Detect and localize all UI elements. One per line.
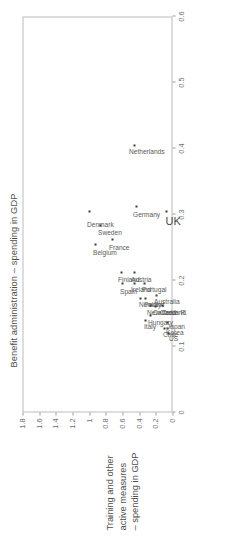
data-point[interactable]	[154, 305, 156, 307]
data-point[interactable]	[149, 314, 151, 316]
y-axis-tick	[122, 412, 123, 415]
data-point[interactable]	[161, 304, 163, 306]
y-axis-tick-label: 0.2	[151, 418, 160, 428]
rotated-chart-container: Benefit administration – spending in GDP…	[0, 0, 227, 548]
y-axis-tick-label: 0	[168, 418, 177, 422]
data-point-label: Germany	[132, 211, 159, 218]
x-axis-tick	[172, 81, 175, 82]
data-point-label: UK	[165, 214, 180, 226]
y-axis-tick-label: 1	[84, 418, 93, 422]
data-point[interactable]	[144, 319, 146, 321]
data-point-label: Portugal	[141, 286, 166, 293]
data-point-label: Italy	[144, 323, 156, 330]
data-point[interactable]	[94, 243, 96, 245]
x-axis-tick-label: 0.2	[176, 275, 185, 285]
y-axis-tick-label: 0.4	[134, 418, 143, 428]
y-axis-tick	[72, 412, 73, 415]
data-point[interactable]	[133, 271, 135, 273]
y-axis-tick	[139, 412, 140, 415]
x-axis-tick	[172, 15, 175, 16]
y-axis-title-line-2: active measures	[116, 412, 129, 530]
x-axis-tick	[172, 345, 175, 346]
y-axis-tick-label: 1.6	[34, 418, 43, 428]
y-axis-tick	[155, 412, 156, 415]
data-point[interactable]	[167, 332, 169, 334]
y-axis-tick-label: 1.4	[51, 418, 60, 428]
x-axis-title: Benefit administration – spending in GDP	[8, 193, 18, 367]
y-axis-title: Training and other active measures – spe…	[103, 412, 141, 530]
data-point[interactable]	[120, 271, 122, 273]
y-axis-tick	[105, 412, 106, 415]
x-axis-tick-label: 0.5	[176, 77, 185, 87]
x-axis-tick-label: 0	[176, 410, 185, 414]
data-point[interactable]	[165, 210, 167, 212]
x-axis-tick-label: 0.1	[176, 341, 185, 351]
y-axis-tick	[22, 412, 23, 415]
data-point-label: Netherlands	[129, 148, 165, 155]
data-point-label: Czech R.	[160, 308, 187, 315]
y-axis-tick-label: 0.8	[101, 418, 110, 428]
y-axis-title-line-3: – spending in GDP	[128, 412, 141, 530]
data-point-label: Sweden	[97, 229, 121, 236]
data-point-label: Austria	[131, 275, 152, 282]
y-axis-tick	[172, 412, 173, 415]
x-axis-tick	[172, 279, 175, 280]
x-axis-tick	[172, 147, 175, 148]
data-point[interactable]	[99, 224, 101, 226]
data-point-label: Japan	[167, 323, 185, 330]
y-axis-tick	[89, 412, 90, 415]
y-axis-tick-label: 1.2	[68, 418, 77, 428]
data-point[interactable]	[155, 294, 157, 296]
x-axis-tick-label: 0.4	[176, 143, 185, 153]
data-point[interactable]	[88, 210, 90, 212]
y-axis-title-line-1: Training and other	[103, 412, 116, 530]
data-point[interactable]	[143, 282, 145, 284]
y-axis-tick-label: 1.8	[18, 418, 27, 428]
data-point[interactable]	[149, 304, 151, 306]
y-axis-tick-label: 0.6	[118, 418, 127, 428]
y-axis-tick	[55, 412, 56, 415]
data-point[interactable]	[135, 205, 137, 207]
data-point[interactable]	[133, 144, 135, 146]
data-point[interactable]	[144, 297, 146, 299]
data-point[interactable]	[163, 327, 165, 329]
data-point-label: France	[109, 244, 130, 251]
chart-canvas: Benefit administration – spending in GDP…	[0, 0, 227, 548]
x-axis-tick-label: 0.6	[176, 11, 185, 21]
data-point-label: US	[168, 335, 177, 342]
y-axis-tick	[39, 412, 40, 415]
data-point-label: Australia	[154, 298, 180, 305]
data-point[interactable]	[139, 297, 141, 299]
data-point[interactable]	[111, 238, 113, 240]
